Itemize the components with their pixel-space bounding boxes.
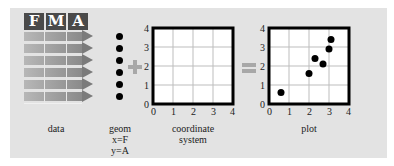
geom-mapping-y: y=A: [100, 145, 140, 156]
data-row: [24, 68, 82, 77]
point-icon: [116, 57, 123, 64]
y-tick: 1: [260, 81, 265, 91]
point-icon: [116, 69, 123, 76]
point-icon: [116, 81, 123, 88]
y-tick: 4: [260, 24, 265, 34]
scatter-plot: [266, 25, 354, 107]
x-tick: 3: [211, 107, 216, 117]
arrow-right-icon: [82, 90, 93, 102]
coordinate-system-label: coordinate: [163, 123, 223, 134]
column-header-a: A: [68, 13, 88, 30]
table-bottom-border: [24, 103, 82, 104]
point-icon: [116, 93, 123, 100]
data-label: data: [36, 123, 76, 134]
arrow-right-icon: [82, 66, 93, 78]
x-tick: 4: [230, 107, 235, 117]
geom-mapping-x: x=F: [100, 134, 140, 145]
y-tick: 3: [260, 43, 265, 53]
y-tick: 0: [144, 100, 149, 110]
plus-icon: [127, 59, 143, 75]
y-tick: 3: [144, 43, 149, 53]
y-tick: 4: [144, 24, 149, 34]
x-tick: 0: [267, 107, 272, 117]
arrow-right-icon: [82, 78, 93, 90]
data-row: [24, 56, 82, 65]
arrow-right-icon: [82, 42, 93, 54]
x-tick: 2: [307, 107, 312, 117]
x-tick: 2: [191, 107, 196, 117]
column-header-f: F: [24, 13, 44, 30]
arrow-right-icon: [82, 54, 93, 66]
point-icon: [116, 45, 123, 52]
column-divider: [44, 31, 45, 103]
column-divider: [66, 31, 67, 103]
plot-label: plot: [289, 123, 329, 134]
data-row: [24, 80, 82, 89]
x-tick: 0: [151, 107, 156, 117]
data-row: [24, 32, 82, 41]
coordinate-system-grid: [150, 25, 238, 107]
x-tick: 4: [346, 107, 351, 117]
arrow-right-icon: [82, 30, 93, 42]
geom-label: geom: [100, 123, 140, 134]
y-tick: 2: [260, 62, 265, 72]
y-tick: 0: [260, 100, 265, 110]
y-tick: 1: [144, 81, 149, 91]
coordinate-system-label-line2: system: [163, 134, 223, 145]
equals-icon: [241, 62, 257, 74]
column-header-m: M: [46, 13, 66, 30]
x-tick: 1: [171, 107, 176, 117]
x-tick: 1: [287, 107, 292, 117]
data-row: [24, 92, 82, 101]
point-icon: [116, 33, 123, 40]
x-tick: 3: [327, 107, 332, 117]
data-row: [24, 44, 82, 53]
y-tick: 2: [144, 62, 149, 72]
